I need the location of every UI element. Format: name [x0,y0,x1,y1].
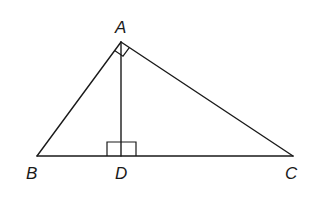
geometry-diagram: A B D C [0,0,317,204]
label-b: B [26,164,37,183]
label-c: C [285,164,298,183]
right-angle-marker-d-left [107,142,121,156]
right-angle-marker-d-right [121,142,136,156]
right-angle-marker-a [115,48,130,57]
label-a: A [114,18,126,37]
label-d: D [115,164,127,183]
segment-ab [37,42,121,156]
diagram-svg: A B D C [0,0,317,204]
segment-ac [121,42,293,156]
